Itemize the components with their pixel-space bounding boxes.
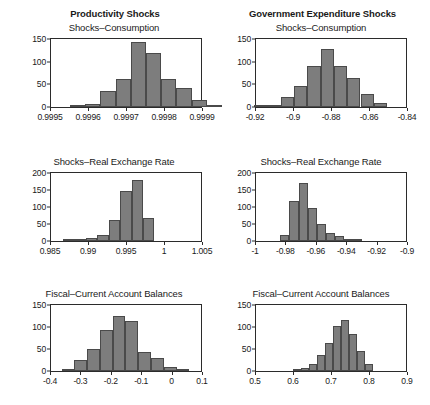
histogram-bar bbox=[326, 233, 335, 241]
histogram-bar bbox=[138, 352, 151, 371]
histogram-bar bbox=[289, 201, 298, 241]
histogram-bar bbox=[335, 236, 344, 241]
histogram-bar bbox=[317, 224, 326, 241]
x-axis-tick-label: 0.99 bbox=[80, 246, 96, 256]
x-axis-tick-mark bbox=[80, 372, 81, 375]
x-axis-tick-label: 0.9 bbox=[401, 376, 412, 386]
histogram-bar bbox=[254, 105, 267, 107]
y-axis-tick-mark bbox=[47, 349, 50, 350]
y-axis-tick-label: 150 bbox=[237, 185, 251, 195]
histogram-bar bbox=[281, 97, 294, 107]
x-axis-tick-mark bbox=[202, 242, 203, 245]
y-axis-tick-label: 0 bbox=[41, 236, 46, 246]
histogram-bar bbox=[301, 368, 309, 371]
x-axis-tick-label: 0.5 bbox=[249, 376, 260, 386]
histogram-bars bbox=[256, 39, 406, 107]
y-axis-tick-label: 100 bbox=[32, 202, 46, 212]
histogram-bar bbox=[309, 364, 317, 371]
y-axis-tick-label: 0 bbox=[41, 102, 46, 112]
y-axis-tick-label: 100 bbox=[32, 57, 46, 67]
y-axis-tick-mark bbox=[47, 39, 50, 40]
plot-area: 050100150200-1-0.98-0.96-0.94-0.92-0.9 bbox=[255, 172, 407, 242]
x-axis-tick-label: -0.96 bbox=[307, 246, 326, 256]
histogram-bar bbox=[357, 351, 365, 371]
y-axis-tick-mark bbox=[252, 61, 255, 62]
histogram-bar bbox=[294, 86, 307, 107]
x-axis-tick-label: 0.9999 bbox=[189, 112, 214, 122]
histogram-bar bbox=[132, 180, 143, 241]
x-axis-tick-label: -0.4 bbox=[43, 376, 57, 386]
x-axis-tick-label: 0 bbox=[169, 376, 174, 386]
histogram-bar bbox=[62, 369, 75, 371]
histogram-bar bbox=[374, 103, 387, 107]
x-axis-tick-mark bbox=[377, 242, 378, 245]
histogram-bar bbox=[151, 358, 164, 371]
x-axis-tick-label: 0.985 bbox=[40, 246, 61, 256]
histogram-bar bbox=[131, 42, 146, 107]
y-axis-tick-mark bbox=[252, 305, 255, 306]
histogram-bar bbox=[341, 320, 349, 371]
y-axis-tick-label: 0 bbox=[41, 366, 46, 376]
x-axis-tick-mark bbox=[202, 372, 203, 375]
y-axis-tick-label: 50 bbox=[242, 79, 251, 89]
figure-canvas: Productivity Shocks Government Expenditu… bbox=[0, 0, 430, 405]
x-axis-tick-mark bbox=[407, 242, 408, 245]
histogram-bar bbox=[307, 66, 320, 107]
histogram-bar bbox=[347, 78, 360, 107]
x-axis-tick-label: 0.9998 bbox=[151, 112, 176, 122]
x-axis-tick-label: -0.98 bbox=[276, 246, 295, 256]
y-axis-tick-mark bbox=[252, 190, 255, 191]
x-axis-tick-label: -0.84 bbox=[398, 112, 417, 122]
y-axis-tick-label: 150 bbox=[237, 300, 251, 310]
panel-title: Shocks–Real Exchange Rate bbox=[223, 156, 419, 167]
x-axis-tick-label: -0.92 bbox=[246, 112, 265, 122]
x-axis-tick-mark bbox=[369, 108, 370, 111]
plot-area: 050100150-0.92-0.9-0.88-0.86-0.84 bbox=[255, 38, 407, 108]
histogram-bar bbox=[325, 343, 333, 371]
plot-area: 0501001500.99950.99960.99970.99980.9999 bbox=[50, 38, 202, 108]
histogram-bar bbox=[143, 218, 154, 241]
histogram-bar bbox=[161, 79, 176, 107]
histogram-bar bbox=[85, 104, 100, 107]
x-axis-tick-mark bbox=[126, 108, 127, 111]
y-axis-tick-mark bbox=[47, 224, 50, 225]
x-axis-tick-mark bbox=[346, 242, 347, 245]
histogram-bar bbox=[365, 364, 373, 371]
panel-top-left: Shocks–Consumption 0501001500.99950.9996… bbox=[18, 22, 210, 132]
histogram-bar bbox=[116, 79, 131, 107]
y-axis-tick-mark bbox=[47, 190, 50, 191]
x-axis-tick-mark bbox=[141, 372, 142, 375]
x-axis-tick-label: 0.8 bbox=[363, 376, 374, 386]
x-axis-tick-mark bbox=[293, 372, 294, 375]
panel-title: Shocks–Consumption bbox=[18, 22, 210, 33]
y-axis-tick-label: 100 bbox=[237, 57, 251, 67]
histogram-bar bbox=[334, 66, 347, 107]
histogram-bar bbox=[333, 326, 341, 371]
histogram-bar bbox=[63, 239, 74, 241]
histogram-bar bbox=[86, 238, 97, 241]
histogram-bar bbox=[113, 316, 126, 371]
y-axis-tick-label: 100 bbox=[32, 322, 46, 332]
histogram-bar bbox=[100, 91, 115, 107]
histogram-bar bbox=[353, 239, 362, 241]
x-axis-tick-label: -0.86 bbox=[360, 112, 379, 122]
panel-title: Fiscal–Current Account Balances bbox=[223, 288, 419, 299]
y-axis-tick-mark bbox=[252, 327, 255, 328]
x-axis-tick-label: 0.9995 bbox=[37, 112, 62, 122]
panel-title: Fiscal–Current Account Balances bbox=[18, 288, 210, 299]
histogram-bar bbox=[74, 360, 87, 371]
histogram-bars bbox=[256, 305, 406, 371]
y-axis-tick-mark bbox=[47, 305, 50, 306]
x-axis-tick-mark bbox=[172, 372, 173, 375]
y-axis-tick-mark bbox=[252, 224, 255, 225]
histogram-bar bbox=[361, 94, 374, 107]
y-axis-tick-mark bbox=[252, 84, 255, 85]
x-axis-tick-mark bbox=[255, 108, 256, 111]
x-axis-tick-mark bbox=[50, 372, 51, 375]
x-axis-tick-label: 1 bbox=[162, 246, 167, 256]
y-axis-tick-label: 150 bbox=[32, 34, 46, 44]
y-axis-tick-label: 50 bbox=[37, 219, 46, 229]
y-axis-tick-mark bbox=[47, 84, 50, 85]
histogram-bars bbox=[256, 173, 406, 241]
column-header-right: Government Expenditure Shocks bbox=[225, 8, 420, 19]
